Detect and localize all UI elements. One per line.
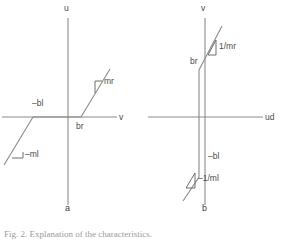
panel-b-slope-triangle-upper	[208, 40, 216, 55]
figure-svg	[0, 0, 284, 239]
panel-a-axis-label-u: u	[64, 4, 69, 13]
panel-b-label-slope-lower: –1/ml	[198, 174, 219, 183]
figure-caption: Fig. 2. Explanation of the characteristi…	[4, 229, 152, 239]
panel-a-group	[2, 18, 117, 205]
panel-b-letter: b	[202, 203, 207, 213]
panel-a-label-breakpoint-left: –bl	[32, 99, 43, 108]
panel-a-label-slope-right: mr	[104, 77, 114, 86]
panel-a-label-slope-left: –ml	[25, 150, 39, 159]
panel-a-slope-triangle-left	[12, 152, 23, 158]
panel-a-label-breakpoint-right: br	[76, 122, 84, 131]
panel-a-axis-label-v: v	[119, 113, 123, 122]
panel-b-label-breakpoint-right: br	[190, 57, 198, 66]
panel-b-label-slope-upper: 1/mr	[219, 42, 236, 51]
panel-b-axis-label-v: v	[201, 4, 205, 13]
panel-b-axis-label-ud: ud	[265, 113, 274, 122]
panel-a-letter: a	[65, 203, 70, 213]
panel-b-label-breakpoint-left: –bl	[208, 152, 219, 161]
figure-container: u v mr –ml br –bl a v ud 1/mr –1/ml br –…	[0, 0, 284, 239]
